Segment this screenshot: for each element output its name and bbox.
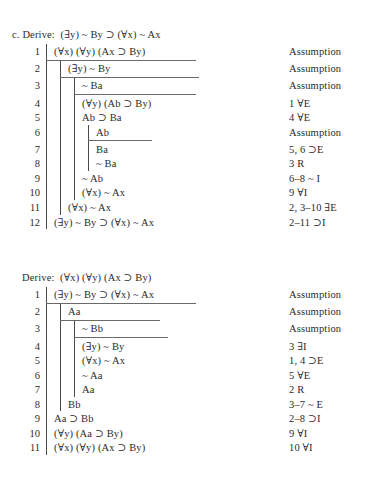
justification: 6–8 ~ I [289,172,320,186]
scope-line [46,171,47,186]
justification: 9 ∀I [289,427,307,441]
scope-line [46,304,47,321]
scope-line [46,78,47,95]
derivation-row: 7Ba5, 6 ⊃E [0,142,365,157]
derivation-row: 10(∀x) ~ Ax9 ∀I [0,185,365,200]
proof-heading: Derive: (∀x) (∀y) (Ax ⊃ By) [0,271,365,284]
scope-line [74,96,75,111]
justification: 10 ∀I [289,441,313,455]
derivation-row: 3~ BaAssumption [0,78,365,95]
line-number: 5 [0,111,40,125]
scope-line [46,61,47,78]
scope-area: (∀y) (Aa ⊃ By) [46,426,365,441]
derivation-row: 2(∃y) ~ ByAssumption [0,61,365,78]
scope-line [60,78,61,95]
line-number: 1 [0,288,40,302]
derivation-row: 4(∀y) (Ab ⊃ By)1 ∀E [0,96,365,111]
formula: (∀x) (∀y) (Ax ⊃ By) [54,45,145,59]
line-number: 7 [0,143,40,157]
derivation-row: 8Bb3–7 ~ E [0,397,365,412]
scope-line [74,142,75,157]
formula: ~ Aa [82,369,103,383]
justification: Assumption [289,79,341,93]
line-number: 10 [0,186,40,200]
scope-area: (∀y) (Ab ⊃ By) [46,96,365,111]
scope-area: Aa [46,382,365,397]
justification: 3–7 ~ E [289,398,323,412]
scope-line [46,215,47,230]
line-number: 5 [0,354,40,368]
scope-line [46,185,47,200]
derivation-row: 5(∀x) ~ Ax1, 4 ⊃E [0,353,365,368]
derivation-rows: 1(∀x) (∀y) (Ax ⊃ By)Assumption2(∃y) ~ By… [0,44,365,229]
scope-line [60,156,61,171]
derivation-row: 1(∀x) (∀y) (Ax ⊃ By)Assumption [0,44,365,61]
scope-line [46,397,47,412]
scope-line [46,411,47,426]
scope-line [60,353,61,368]
scope-area: ~ Aa [46,368,365,383]
derivation-row: 3~ BbAssumption [0,321,365,338]
scope-line [46,142,47,157]
justification: Assumption [289,45,341,59]
scope-line [46,440,47,455]
line-number: 3 [0,79,40,93]
scope-line [46,44,47,61]
justification: 1 ∀E [289,97,310,111]
justification: Assumption [289,288,341,302]
line-number: 10 [0,427,40,441]
formula: ~ Bb [82,322,103,336]
scope-line [60,142,61,157]
proof-heading: c. Derive: (∃y) ~ By ⊃ (∀x) ~ Ax [0,28,365,41]
scope-line [60,368,61,383]
scope-line [74,339,75,354]
scope-line [74,368,75,383]
derivation-row: 2AaAssumption [0,304,365,321]
formula: (∀y) (Aa ⊃ By) [54,427,123,441]
scope-line [60,171,61,186]
scope-line [46,96,47,111]
scope-line [74,185,75,200]
formula: ~ Ba [96,157,117,171]
proof-goal-formula: (∀x) (∀y) (Ax ⊃ By) [60,271,151,284]
line-number: 11 [0,201,40,215]
derive-keyword: Derive: [22,28,55,41]
justification: 9 ∀I [289,186,307,200]
justification: 4 ∀E [289,111,310,125]
scope-line [60,304,61,321]
derive-keyword: Derive: [22,271,55,284]
scope-line [60,397,61,412]
scope-line [46,200,47,215]
scope-line [46,156,47,171]
formula: Ab [96,126,109,140]
line-number: 4 [0,340,40,354]
formula: (∀x) ~ Ax [82,186,125,200]
scope-line [88,156,89,171]
line-number: 9 [0,172,40,186]
scope-line [60,125,61,142]
justification: 2, 3–10 ∃E [289,201,337,215]
scope-line [46,382,47,397]
line-number: 6 [0,126,40,140]
derivation-row: 9~ Ab6–8 ~ I [0,171,365,186]
justification: Assumption [289,322,341,336]
formula: Aa [82,383,95,397]
formula: (∃y) ~ By [68,62,110,76]
justification: Assumption [289,305,341,319]
derivation-row: 4(∃y) ~ By3 ∃I [0,339,365,354]
line-number: 2 [0,62,40,76]
formula: (∀x) (∀y) (Ax ⊃ By) [54,441,145,455]
justification: 5, 6 ⊃E [289,143,324,157]
scope-area: (∀x) (∀y) (Ax ⊃ By) [46,440,365,455]
scope-line [60,339,61,354]
scope-line [46,353,47,368]
justification: 1, 4 ⊃E [289,354,324,368]
formula: Aa ⊃ Bb [54,412,94,426]
scope-line [46,125,47,142]
line-number: 4 [0,97,40,111]
justification: 2 R [289,383,304,397]
derivation-row: 1(∃y) ~ By ⊃ (∀x) ~ AxAssumption [0,287,365,304]
formula: (∃y) ~ By [82,340,124,354]
formula: ~ Ba [82,79,103,93]
justification: 5 ∀E [289,369,310,383]
